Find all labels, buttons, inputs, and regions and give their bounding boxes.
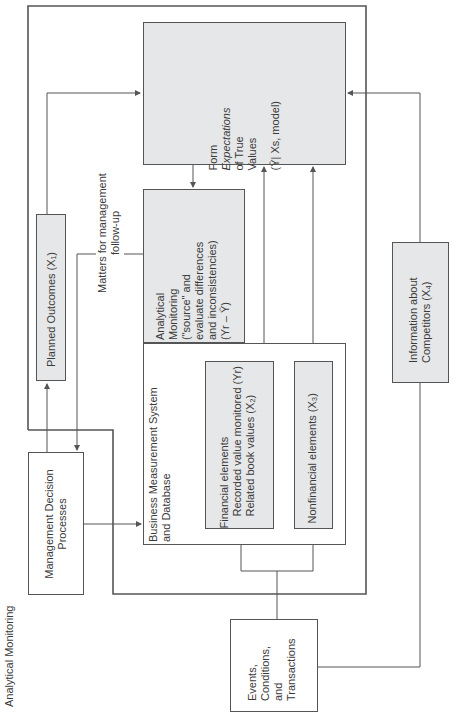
matters-for-management-label: Matters for management follow-up <box>96 163 124 303</box>
financial-elements-text: Financial elements Recorded value monito… <box>218 364 260 529</box>
planned-outcomes-box: Planned Outcomes (X₁) <box>36 214 66 381</box>
financial-elements-box: Financial elements Recorded value monito… <box>205 361 274 529</box>
events-conditions-text: Events, Conditions, and Transactions <box>246 611 302 701</box>
management-decision-text: Management Decision Processes <box>43 454 71 594</box>
business-measurement-text: Business Measurement System and Database <box>147 382 175 542</box>
analytical-monitoring-box: Analytical Monitoring ("source" and eval… <box>143 189 245 343</box>
form-expectations-text: Form Expectations of True Values (Ŷ| Xs,… <box>207 51 282 171</box>
nonfinancial-elements-box: Nonfinancial elements (X₃) <box>294 361 333 529</box>
management-decision-box: Management Decision Processes <box>28 452 84 595</box>
planned-outcomes-label: Planned Outcomes (X₁) <box>45 217 59 367</box>
competitors-info-text: Information about Competitors (X₄) <box>407 263 435 363</box>
figure-caption: Analytical Monitoring <box>3 587 17 707</box>
nonfinancial-elements-label: Nonfinancial elements (X₃) <box>306 369 320 524</box>
form-expectations-box: Form Expectations of True Values (Ŷ| Xs,… <box>143 22 346 165</box>
arrow-planned-to-form <box>47 93 140 214</box>
analytical-monitoring-text: Analytical Monitoring ("source" and eval… <box>154 200 234 340</box>
arrow-competitors-to-form <box>348 93 420 242</box>
events-conditions-box: Events, Conditions, and Transactions <box>230 619 318 712</box>
competitors-info-box: Information about Competitors (X₄) <box>392 242 449 383</box>
